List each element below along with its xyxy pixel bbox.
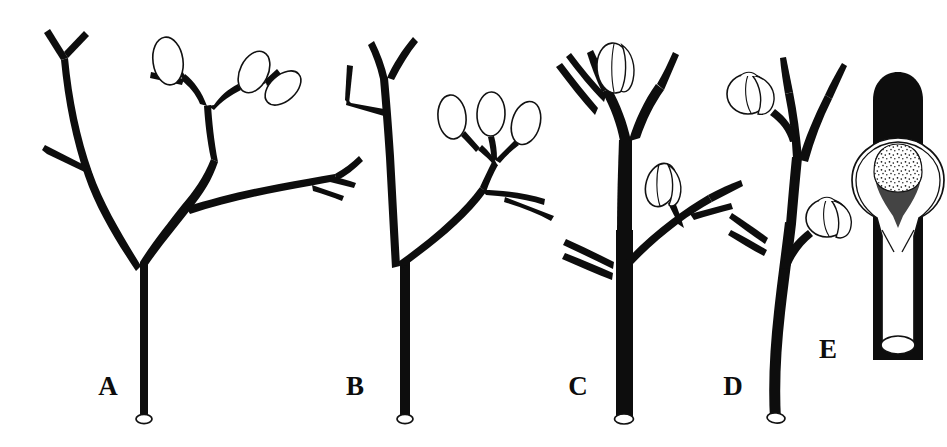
panel-label-e: E <box>819 334 837 364</box>
panel-label-c: C <box>568 371 588 401</box>
panel-b-stem-cut-end <box>397 414 413 423</box>
panel-a-stem-cut-end <box>136 414 152 423</box>
figure-svg: A B <box>0 0 947 447</box>
panel-e-sporangium-dome-highlight <box>874 144 922 192</box>
panel-c-axis-upper <box>617 140 632 234</box>
panel-e-stem-cut-end <box>881 336 915 354</box>
panel-label-d: D <box>723 371 743 401</box>
panel-c-stem-cut-end <box>615 414 634 424</box>
panel-label-a: A <box>98 371 118 401</box>
panel-b-main-axis <box>400 262 410 420</box>
panel-b-sporangium-2 <box>476 92 506 137</box>
panel-label-b: B <box>346 371 364 401</box>
figure-plate: A B <box>0 0 947 447</box>
panel-a-main-axis <box>140 262 148 420</box>
